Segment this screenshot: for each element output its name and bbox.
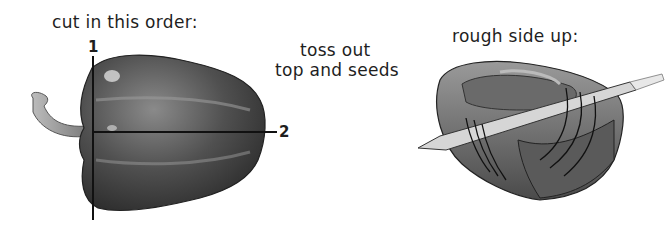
- cut-label-1: 1: [88, 38, 98, 56]
- toss-out-caption-line1: toss out: [300, 40, 370, 60]
- cut-label-2: 2: [279, 123, 289, 141]
- sliced-pepper-illustration: [400, 0, 665, 234]
- toss-out-caption-line2: top and seeds: [275, 60, 399, 80]
- bell-pepper-illustration: [0, 0, 300, 234]
